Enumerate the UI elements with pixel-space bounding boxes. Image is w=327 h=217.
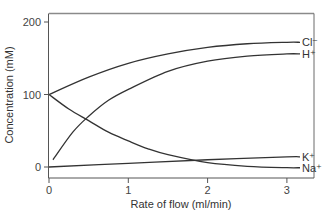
series-label-na: Na⁺ — [302, 162, 322, 174]
series-line-cl — [49, 42, 300, 94]
series-line-k — [49, 157, 300, 167]
y-axis-ticks: 0100200 — [23, 16, 49, 173]
series-label-h: H⁺ — [302, 48, 316, 60]
series-line-h — [53, 54, 300, 160]
x-tick-label: 1 — [125, 184, 131, 196]
x-axis-title: Rate of flow (ml/min) — [131, 198, 232, 210]
y-axis-title: Concentration (mM) — [3, 46, 15, 143]
y-tick-label: 0 — [35, 161, 41, 173]
x-tick-label: 0 — [46, 184, 52, 196]
series-line-na — [49, 95, 300, 168]
series-label-cl: Cl⁻ — [302, 36, 318, 48]
y-tick-label: 200 — [23, 16, 41, 28]
x-tick-label: 2 — [205, 184, 211, 196]
x-axis-ticks: 0123 — [46, 178, 290, 196]
series-group: Cl⁻H⁺K⁺Na⁺ — [49, 36, 322, 173]
line-chart: 0100200 0123 Rate of flow (ml/min) Conce… — [0, 0, 327, 217]
y-tick-label: 100 — [23, 89, 41, 101]
x-tick-label: 3 — [284, 184, 290, 196]
